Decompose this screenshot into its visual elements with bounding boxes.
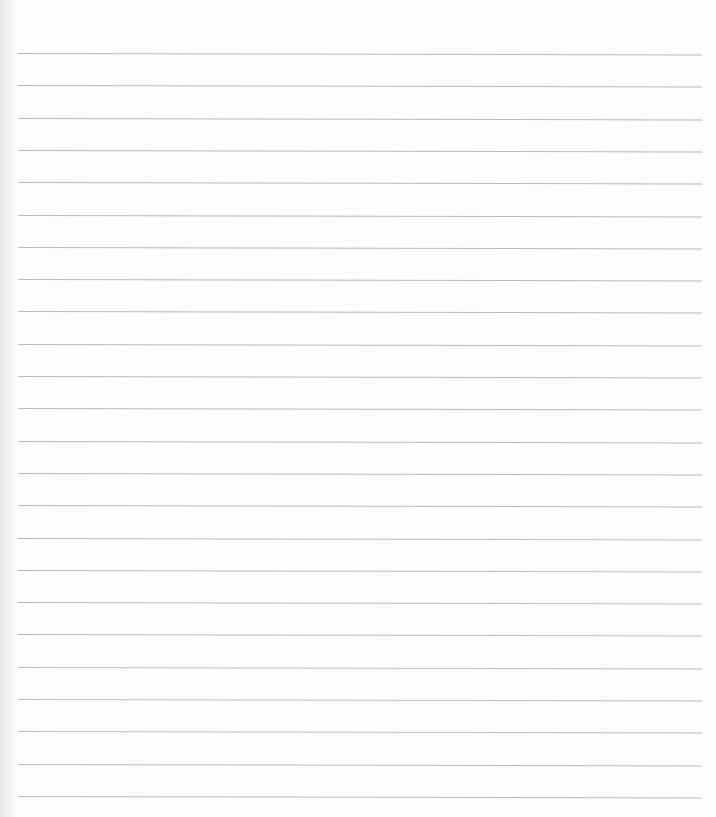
ruled-line <box>18 408 702 410</box>
ruled-line <box>18 634 702 636</box>
ruled-line <box>18 376 702 378</box>
paper-edge-shadow <box>0 0 16 817</box>
ruled-line <box>18 182 702 184</box>
ruled-line <box>18 570 702 572</box>
ruled-line <box>18 53 702 55</box>
ruled-line <box>18 344 702 346</box>
ruled-line <box>18 602 702 604</box>
ruled-line <box>18 150 702 152</box>
ruled-line <box>18 118 702 120</box>
ruled-line <box>18 699 702 701</box>
ruled-line <box>18 764 702 766</box>
ruled-line <box>18 473 702 475</box>
ruled-line <box>18 85 702 87</box>
ruled-line <box>18 731 702 733</box>
ruled-line <box>18 215 702 217</box>
lined-paper-sheet <box>0 0 716 817</box>
ruled-line <box>18 279 702 281</box>
ruled-line <box>18 667 702 669</box>
ruled-line <box>18 441 702 443</box>
ruled-line <box>18 311 702 313</box>
ruled-line <box>18 247 702 249</box>
ruled-line <box>18 796 702 798</box>
ruled-line <box>18 538 702 540</box>
ruled-line <box>18 505 702 507</box>
